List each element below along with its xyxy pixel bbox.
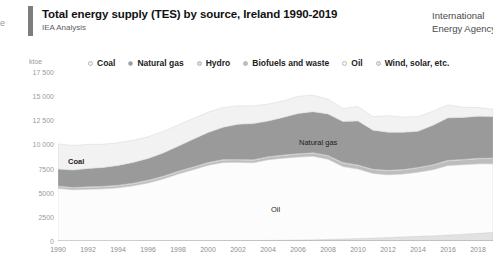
legend-item-label: Coal xyxy=(97,58,115,68)
plot-area xyxy=(58,72,493,241)
legend-swatch-icon xyxy=(128,61,133,66)
brand-line-2: Energy Agency xyxy=(432,22,496,35)
legend-item-label: Natural gas xyxy=(137,58,183,68)
y-axis-tick-label: 0 xyxy=(50,238,54,245)
legend-item[interactable]: Oil xyxy=(342,58,362,68)
x-axis-tick-label: 1996 xyxy=(140,246,156,253)
x-axis-tick-label: 2006 xyxy=(290,246,306,253)
y-axis-tick-label: 2500 xyxy=(38,213,54,220)
x-axis-tick-label: 1998 xyxy=(170,246,186,253)
x-axis-tick-label: 1990 xyxy=(50,246,66,253)
page-title: Total energy supply (TES) by source, Ire… xyxy=(42,7,337,21)
chart-legend: CoalNatural gasHydroBiofuels and wasteOi… xyxy=(88,58,449,68)
x-axis-tick-label: 2010 xyxy=(350,246,366,253)
chart-subtitle: IEA Analysis xyxy=(42,22,337,34)
stacked-area-svg xyxy=(58,72,493,241)
y-axis-tick-label: 12 500 xyxy=(33,117,54,124)
x-axis-tick-label: 2018 xyxy=(470,246,486,253)
x-axis-ticks: 1990199219941996199820002002200420062008… xyxy=(58,246,493,258)
y-axis-unit-label: ktoe xyxy=(29,58,42,65)
x-axis-tick-label: 1994 xyxy=(110,246,126,253)
left-edge-fragment: e xyxy=(0,14,8,32)
chart-page: e Total energy supply (TES) by source, I… xyxy=(0,0,504,278)
legend-item[interactable]: Wind, solar, etc. xyxy=(376,58,450,68)
y-axis-tick-label: 17 500 xyxy=(33,69,54,76)
legend-swatch-icon xyxy=(376,61,381,66)
y-axis-tick-label: 15 000 xyxy=(33,93,54,100)
series-annotation-label: Oil xyxy=(271,205,280,214)
x-axis-tick-label: 2016 xyxy=(440,246,456,253)
iea-branding: International Energy Agency xyxy=(432,9,496,35)
y-axis-tick-label: 10 000 xyxy=(33,141,54,148)
x-axis-tick-label: 2014 xyxy=(410,246,426,253)
legend-swatch-icon xyxy=(243,61,248,66)
y-axis-tick-label: 7500 xyxy=(38,165,54,172)
legend-item[interactable]: Coal xyxy=(88,58,115,68)
y-axis-ticks: 025005000750010 00012 50015 00017 500 xyxy=(20,72,54,241)
legend-swatch-icon xyxy=(342,61,347,66)
chart-header: Total energy supply (TES) by source, Ire… xyxy=(28,6,337,36)
x-axis-tick-label: 2012 xyxy=(380,246,396,253)
legend-item[interactable]: Hydro xyxy=(197,58,231,68)
legend-swatch-icon xyxy=(197,61,202,66)
x-axis-tick-label: 2000 xyxy=(200,246,216,253)
right-edge-crop xyxy=(493,0,504,278)
legend-item[interactable]: Biofuels and waste xyxy=(243,58,329,68)
legend-swatch-icon xyxy=(88,61,93,66)
brand-line-1: International xyxy=(432,9,496,22)
x-axis-tick-label: 2008 xyxy=(320,246,336,253)
legend-item-label: Hydro xyxy=(206,58,231,68)
x-axis-tick-label: 1992 xyxy=(80,246,96,253)
legend-item[interactable]: Natural gas xyxy=(128,58,183,68)
legend-item-label: Wind, solar, etc. xyxy=(385,58,450,68)
title-accent-bar xyxy=(28,6,33,36)
legend-item-label: Oil xyxy=(351,58,362,68)
legend-item-label: Biofuels and waste xyxy=(252,58,329,68)
x-axis-tick-label: 2004 xyxy=(260,246,276,253)
x-axis-tick-label: 2002 xyxy=(230,246,246,253)
series-annotation-label: Natural gas xyxy=(299,138,337,147)
y-axis-tick-label: 5000 xyxy=(38,189,54,196)
series-annotation-label: Coal xyxy=(68,157,84,166)
